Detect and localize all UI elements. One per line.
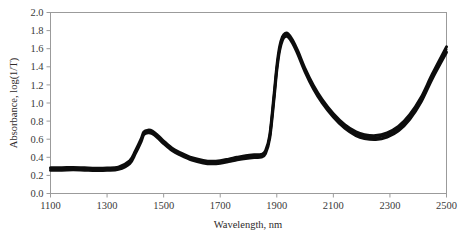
x-tick-label: 1100 bbox=[40, 200, 61, 211]
x-tick-label: 1700 bbox=[210, 200, 231, 211]
y-tick-label: 1.0 bbox=[30, 98, 43, 109]
x-tick-label: 1300 bbox=[97, 200, 118, 211]
x-tick-label: 1500 bbox=[153, 200, 174, 211]
x-tick-label: 2100 bbox=[323, 200, 344, 211]
y-tick-label: 0.0 bbox=[30, 188, 43, 199]
spectra-figure: 0.00.20.40.60.81.01.21.41.61.82.0 110013… bbox=[0, 0, 464, 236]
y-tick-label: 1.8 bbox=[30, 25, 43, 36]
y-tick-label: 0.6 bbox=[30, 134, 43, 145]
x-tick-label: 1900 bbox=[266, 200, 287, 211]
y-axis-title: Absorbance, log(1/T) bbox=[8, 57, 20, 148]
y-tick-label: 0.8 bbox=[30, 116, 43, 127]
x-tick-label: 2300 bbox=[379, 200, 400, 211]
y-tick-label: 0.4 bbox=[30, 152, 44, 163]
x-axis-title: Wavelength, nm bbox=[214, 219, 283, 230]
x-tick-label: 2500 bbox=[436, 200, 457, 211]
y-tick-label: 1.4 bbox=[30, 61, 44, 72]
y-axis-tick-labels: 0.00.20.40.60.81.01.21.41.61.82.0 bbox=[30, 7, 44, 199]
y-tick-label: 1.2 bbox=[30, 80, 43, 91]
y-tick-label: 0.2 bbox=[30, 170, 43, 181]
y-tick-label: 2.0 bbox=[30, 7, 43, 18]
spectra-chart-svg: 0.00.20.40.60.81.01.21.41.61.82.0 110013… bbox=[0, 0, 464, 236]
y-tick-label: 1.6 bbox=[30, 43, 43, 54]
